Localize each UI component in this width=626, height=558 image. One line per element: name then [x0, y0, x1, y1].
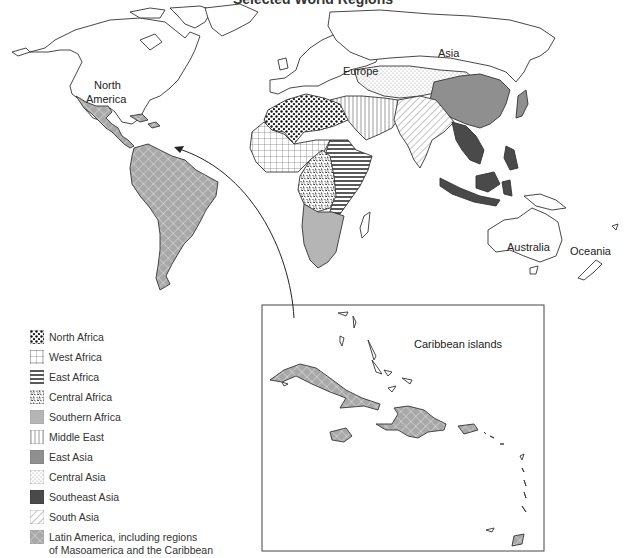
legend-label: East Asia: [49, 450, 93, 464]
southern-africa-region: [302, 204, 344, 268]
legend-label: Central Africa: [49, 390, 112, 404]
new-guinea: [524, 194, 566, 210]
legend-item-central-africa: Central Africa: [30, 390, 260, 410]
southern-africa-swatch-icon: [30, 410, 44, 424]
east-africa-swatch-icon: [30, 370, 44, 384]
legend-label: Middle East: [49, 430, 104, 444]
legend-item-southeast-asia: Southeast Asia: [30, 490, 260, 510]
legend-label: Southeast Asia: [49, 490, 119, 504]
legend-item-south-asia: South Asia: [30, 510, 260, 530]
legend-label-line1: Latin America, including regions: [49, 531, 197, 543]
legend-item-middle-east: Middle East: [30, 430, 260, 450]
southeast-asia-swatch-icon: [30, 490, 44, 504]
north-america: [12, 4, 258, 124]
label-north-america-1: North: [94, 79, 121, 91]
legend-item-east-asia: East Asia: [30, 450, 260, 470]
label-europe: Europe: [343, 65, 378, 77]
legend-label: West Africa: [49, 350, 102, 364]
label-north-america-2: America: [86, 93, 127, 105]
japan: [516, 90, 528, 118]
legend-item-north-africa: North Africa: [30, 330, 260, 350]
legend-label-line2: of Masoamerica and the Caribbean: [49, 544, 213, 556]
west-africa-swatch-icon: [30, 350, 44, 364]
middle-east-swatch-icon: [30, 430, 44, 444]
label-oceania: Oceania: [570, 245, 612, 257]
tasmania: [530, 266, 538, 274]
legend: North Africa West Africa East Africa Cen…: [30, 330, 260, 558]
label-caribbean-islands: Caribbean islands: [414, 338, 503, 350]
pacific-island: [612, 224, 618, 230]
label-australia: Australia: [507, 241, 551, 253]
legend-item-east-africa: East Africa: [30, 370, 260, 390]
madagascar: [360, 212, 370, 238]
legend-label: Central Asia: [49, 470, 106, 484]
new-zealand: [578, 260, 602, 280]
legend-label: East Africa: [49, 370, 99, 384]
central-asia-swatch-icon: [30, 470, 44, 484]
legend-item-southern-africa: Southern Africa: [30, 410, 260, 430]
southeast-asia-region: [440, 122, 518, 206]
australia: [488, 208, 562, 262]
south-asia-swatch-icon: [30, 510, 44, 524]
legend-label: Southern Africa: [49, 410, 121, 424]
legend-item-west-africa: West Africa: [30, 350, 260, 370]
legend-label: North Africa: [49, 330, 104, 344]
latin-america-swatch-icon: [30, 530, 44, 544]
caribbean-inset: Caribbean islands: [262, 305, 544, 551]
north-africa-swatch-icon: [30, 330, 44, 344]
latin-america-region: [76, 96, 218, 290]
legend-item-latin-america: Latin America, including regions of Maso…: [30, 530, 260, 558]
east-asia-swatch-icon: [30, 450, 44, 464]
legend-item-central-asia: Central Asia: [30, 470, 260, 490]
legend-label: South Asia: [49, 510, 99, 524]
central-africa-swatch-icon: [30, 390, 44, 404]
label-asia: Asia: [438, 47, 460, 59]
legend-label: Latin America, including regions of Maso…: [49, 530, 213, 557]
